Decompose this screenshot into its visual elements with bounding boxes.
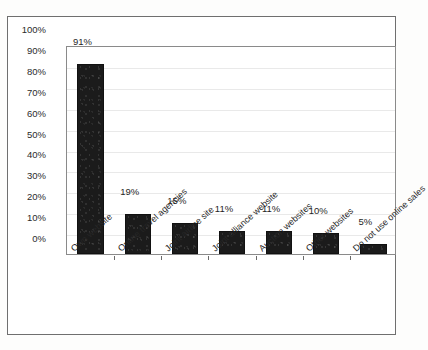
gridline (67, 110, 395, 111)
y-axis-tick-label: 0% (0, 234, 46, 244)
caption-remnant (0, 0, 404, 5)
y-axis-tick-label: 90% (0, 46, 46, 56)
y-axis-tick-label: 30% (0, 171, 46, 181)
chart-outer-frame: 100%90%80%70%60%50%40%30%20%10%0% 91%19%… (7, 16, 396, 335)
x-axis-tick (208, 256, 209, 260)
x-axis-tick (161, 256, 162, 260)
gridline (67, 131, 395, 132)
x-axis-tick (114, 256, 115, 260)
y-axis-tick-label: 100% (0, 25, 46, 35)
gridline (67, 152, 395, 153)
y-axis-tick-label: 20% (0, 192, 46, 202)
x-axis-tick (303, 256, 304, 260)
y-axis-tick-label: 10% (0, 213, 46, 223)
y-axis-tick-label: 70% (0, 88, 46, 98)
y-axis-tick-label: 40% (0, 150, 46, 160)
y-axis-tick-label: 50% (0, 130, 46, 140)
y-axis-tick-label: 60% (0, 109, 46, 119)
gridline (67, 172, 395, 173)
bar-value-label: 19% (108, 186, 152, 197)
y-axis-tick-label: 80% (0, 67, 46, 77)
bar-value-label: 91% (61, 36, 105, 47)
gridline (67, 68, 395, 69)
gridline (67, 89, 395, 90)
x-axis-tick (350, 256, 351, 260)
x-axis-tick (256, 256, 257, 260)
